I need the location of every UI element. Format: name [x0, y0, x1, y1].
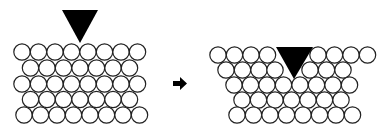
atom-circle — [63, 44, 79, 60]
atom-circle — [96, 76, 112, 92]
atom-circle — [300, 92, 316, 108]
atom-circle — [113, 44, 129, 60]
atom-circle — [302, 62, 318, 78]
atom-circle — [72, 91, 88, 107]
atom-circle — [318, 62, 334, 78]
atom-circle — [267, 92, 283, 108]
atom-circle — [88, 91, 104, 107]
atom-circle — [32, 107, 48, 123]
atom-circle — [210, 47, 226, 63]
atom-circle — [328, 107, 344, 123]
atom-circle — [267, 62, 283, 78]
atom-circle — [131, 107, 147, 123]
atom-circle — [326, 47, 342, 63]
atom-circle — [259, 77, 275, 93]
atom-circle — [343, 47, 359, 63]
atom-circle — [129, 44, 145, 60]
atom-circle — [105, 60, 121, 76]
atom-circle — [14, 44, 30, 60]
atom-circle — [22, 91, 38, 107]
atom-circle — [39, 91, 55, 107]
atom-circle — [278, 107, 294, 123]
atom-circle — [121, 60, 137, 76]
atom-circle — [14, 76, 30, 92]
atom-circle — [80, 44, 96, 60]
indentation-diagram — [0, 0, 385, 131]
atom-circle — [16, 107, 32, 123]
atom-circle — [218, 62, 234, 78]
atom-circle — [115, 107, 131, 123]
atom-circle — [113, 76, 129, 92]
atom-circle — [310, 47, 326, 63]
atom-circle — [55, 60, 71, 76]
atom-circle — [47, 76, 63, 92]
atom-circle — [242, 77, 258, 93]
atom-circle — [295, 107, 311, 123]
indenter-triangle-icon — [62, 10, 98, 43]
atom-circle — [72, 60, 88, 76]
atom-circle — [341, 77, 357, 93]
atom-circle — [335, 62, 351, 78]
atom-circle — [259, 47, 275, 63]
atom-circle — [47, 44, 63, 60]
atom-circle — [234, 62, 250, 78]
atom-circle — [311, 107, 327, 123]
atom-circle — [30, 44, 46, 60]
atom-circle — [229, 107, 245, 123]
atom-circle — [316, 92, 332, 108]
atom-circle — [88, 60, 104, 76]
atom-circle — [308, 77, 324, 93]
atom-circle — [283, 92, 299, 108]
atom-circle — [105, 91, 121, 107]
atom-circle — [49, 107, 65, 123]
atom-circle — [234, 92, 250, 108]
atom-circle — [65, 107, 81, 123]
atom-circle — [55, 91, 71, 107]
atom-circle — [359, 47, 375, 63]
atom-circle — [82, 107, 98, 123]
atom-circle — [96, 44, 112, 60]
lattice-before-panel — [14, 10, 148, 123]
atom-circle — [243, 47, 259, 63]
atom-circle — [226, 47, 242, 63]
atom-circle — [250, 92, 266, 108]
atom-circle — [129, 76, 145, 92]
atom-circle — [121, 91, 137, 107]
atom-circle — [245, 107, 261, 123]
atom-circle — [226, 77, 242, 93]
atom-circle — [39, 60, 55, 76]
atom-circle — [325, 77, 341, 93]
atom-circle — [98, 107, 114, 123]
atom-circle — [262, 107, 278, 123]
lattice-after-panel — [210, 47, 376, 123]
atom-circle — [22, 60, 38, 76]
atom-circle — [333, 92, 349, 108]
atom-circle — [344, 107, 360, 123]
atom-circle — [292, 77, 308, 93]
atom-circle — [275, 77, 291, 93]
atom-circle — [251, 62, 267, 78]
atom-circle — [30, 76, 46, 92]
atom-circle — [63, 76, 79, 92]
atom-circle — [80, 76, 96, 92]
arrow-right-icon — [173, 77, 187, 90]
